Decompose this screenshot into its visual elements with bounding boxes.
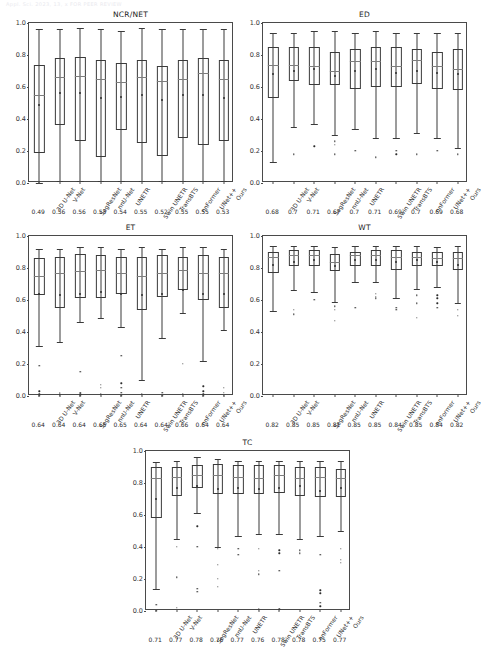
whisker-cap-high <box>77 247 83 248</box>
box-iqr <box>96 60 106 158</box>
figure-grid: NCR/NET3D U-Net0.49V-Net0.56SegResNet0.5… <box>0 10 474 651</box>
y-axis-tick-mark <box>261 396 264 397</box>
whisker-cap-high <box>414 33 420 34</box>
mean-value-label-0: 0.49 <box>28 208 49 215</box>
y-axis-tick-label: 0.8 <box>133 479 143 487</box>
y-axis-tick-label: 0.6 <box>133 511 143 519</box>
whisker-cap-high <box>352 246 358 247</box>
outlier-point <box>299 553 300 554</box>
outlier-point <box>279 553 280 554</box>
y-axis-tick-label: 1.0 <box>133 447 143 455</box>
whisker-cap-low <box>77 322 83 323</box>
boxplot-box <box>152 23 173 181</box>
boxplot-box <box>173 236 194 394</box>
whisker-cap-high <box>36 249 42 250</box>
x-axis-label-4: UNETR <box>368 186 386 207</box>
x-axis-tick-mark <box>299 609 300 612</box>
boxplot-box <box>345 23 366 181</box>
outlier-point <box>320 605 321 606</box>
boxplot-box <box>50 23 71 181</box>
whisker-cap-high <box>200 247 206 248</box>
y-axis-tick-label: 0.2 <box>250 147 260 155</box>
box-iqr <box>198 58 208 144</box>
x-axis-label-4: UNETR <box>134 186 152 207</box>
mean-value-label-6: 0.84 <box>385 421 406 428</box>
mean-value-label-6: 0.69 <box>385 208 406 215</box>
whisker-cap-low <box>118 327 124 328</box>
box-iqr <box>371 47 381 87</box>
x-axis-tick-mark <box>273 394 274 397</box>
whisker-cap-high <box>373 246 379 247</box>
mean-marker <box>313 68 315 70</box>
y-axis-tick-label: 0.6 <box>250 296 260 304</box>
whisker-cap-low <box>317 536 323 537</box>
outlier-point <box>437 302 438 303</box>
box-iqr <box>34 65 44 153</box>
y-axis-tick-label: 0.6 <box>16 83 26 91</box>
box-iqr <box>412 49 422 84</box>
boxplot-box <box>193 23 214 181</box>
boxplot-box <box>70 236 91 394</box>
x-axis-label-4: UNETR <box>368 399 386 420</box>
panel-title: ET <box>28 223 233 232</box>
boxplot-box <box>284 236 305 394</box>
mean-marker <box>120 96 122 98</box>
whisker-cap-low <box>276 534 282 535</box>
x-axis-tick-mark <box>396 394 397 397</box>
median-line <box>330 71 340 72</box>
x-axis-tick-mark <box>121 394 122 397</box>
median-line <box>289 255 299 256</box>
y-axis-tick-label: 0.6 <box>250 83 260 91</box>
outlier-point <box>176 546 177 547</box>
boxplot-box <box>407 23 428 181</box>
outlier-point <box>396 153 397 154</box>
whisker-cap-high <box>159 29 165 30</box>
whisker-cap-high <box>291 246 297 247</box>
median-line <box>178 79 188 80</box>
whisker-cap-high <box>159 249 165 250</box>
mean-marker <box>182 94 184 96</box>
mean-value-label-4: 0.65 <box>110 421 131 428</box>
boxplot-box <box>132 236 153 394</box>
x-axis-tick-mark <box>293 394 294 397</box>
outlier-point <box>203 390 204 391</box>
x-axis-tick-mark <box>314 394 315 397</box>
mean-value-label-9: 0.68 <box>447 208 468 215</box>
outlier-point <box>39 390 40 391</box>
box-iqr <box>178 257 188 291</box>
whisker-cap-high <box>256 461 262 462</box>
whisker-cap-low <box>434 287 440 288</box>
whisker-cap-high <box>36 29 42 30</box>
outlier-point <box>197 546 198 547</box>
whisker-cap-low <box>338 531 344 532</box>
outlier-point <box>375 293 376 294</box>
whisker-cap-low <box>455 303 461 304</box>
y-axis-tick-label: 1.0 <box>250 232 260 240</box>
mean-marker <box>258 488 260 490</box>
boxplot-box <box>70 23 91 181</box>
whisker-cap-high <box>118 31 124 32</box>
boxplot-box <box>91 23 112 181</box>
y-axis-tick-label: 0.2 <box>250 360 260 368</box>
x-axis-tick-mark <box>334 394 335 397</box>
mean-marker <box>334 75 336 77</box>
median-line <box>412 257 422 258</box>
mean-value-label-1: 0.77 <box>166 636 187 643</box>
median-line <box>172 477 182 478</box>
whisker-cap-high <box>291 33 297 34</box>
outlier-point <box>223 387 224 388</box>
median-line <box>151 478 161 479</box>
mean-marker <box>141 294 143 296</box>
x-axis-tick-mark <box>457 181 458 184</box>
whisker-cap-low <box>235 536 241 537</box>
whisker-cap-high <box>180 29 186 30</box>
boxplot-box <box>304 23 325 181</box>
mean-marker <box>196 485 198 487</box>
mean-marker <box>299 485 301 487</box>
x-axis-tick-mark <box>121 181 122 184</box>
boxplot-box <box>345 236 366 394</box>
whisker-cap-low <box>57 342 63 343</box>
x-axis-tick-mark <box>258 609 259 612</box>
whisker-cap-high <box>174 461 180 462</box>
outlier-point <box>416 294 417 295</box>
